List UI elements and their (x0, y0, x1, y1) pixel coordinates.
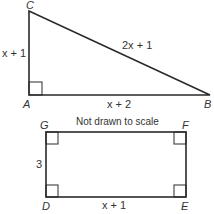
vertex-label-g: G (40, 119, 49, 131)
right-angle-marker-g (46, 132, 58, 144)
right-angle-marker-d (46, 185, 58, 197)
side-label-ac: x + 1 (2, 47, 26, 59)
side-label-gd: 3 (36, 158, 42, 170)
triangle-shape (29, 11, 210, 95)
vertex-label-c: C (26, 0, 34, 11)
side-label-cb: 2x + 1 (122, 39, 152, 51)
right-triangle: C A B x + 1 2x + 1 x + 2 (2, 0, 211, 110)
rectangle-shape (46, 132, 186, 197)
vertex-label-a: A (22, 98, 30, 110)
vertex-label-b: B (204, 98, 211, 110)
side-label-ab: x + 2 (107, 98, 131, 110)
vertex-label-e: E (181, 200, 189, 212)
right-angle-marker-a (29, 82, 42, 95)
right-angle-marker-e (174, 185, 186, 197)
vertex-label-d: D (42, 200, 50, 212)
right-angle-marker-f (174, 132, 186, 144)
side-label-de: x + 1 (102, 199, 126, 211)
scale-note: Not drawn to scale (76, 116, 159, 127)
vertex-label-f: F (182, 119, 190, 131)
geometry-figure: C A B x + 1 2x + 1 x + 2 Not drawn to sc… (0, 0, 214, 214)
rectangle-figure: G F D E 3 x + 1 (36, 119, 190, 212)
